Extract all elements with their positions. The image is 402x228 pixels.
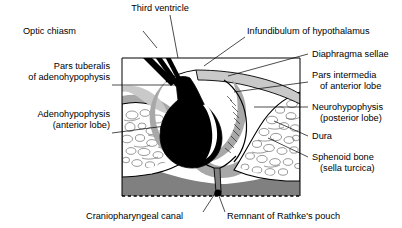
label-pars-intermedia-line1: Pars intermedia (312, 70, 377, 80)
label-dura: Dura (312, 131, 333, 141)
leader-optic-chiasm (143, 31, 157, 48)
label-neurohypophysis-line1: Neurohypophysis (312, 102, 383, 112)
label-rathkes-pouch: Remnant of Rathke's pouch (227, 211, 340, 221)
label-diaphragma-sellae: Diaphragma sellae (312, 49, 389, 59)
label-third-ventricle: Third ventricle (131, 3, 189, 13)
diagram-body (122, 43, 302, 197)
label-neurohypophysis-line2: (posterior lobe) (320, 113, 382, 123)
label-sphenoid-bone-line2: (sella turcica) (320, 163, 375, 173)
label-optic-chiasm: Optic chiasm (23, 26, 76, 36)
leader-rathkes-pouch (219, 196, 225, 212)
label-adenohypophysis-line2: (anterior lobe) (53, 120, 110, 130)
pituitary-anatomy-figure: Third ventricle Optic chiasm Infundibulu… (0, 0, 402, 228)
label-pars-tuberalis-line1: Pars tuberalis (54, 61, 111, 71)
label-pars-tuberalis-line2: of adenohypophysis (28, 72, 110, 82)
label-infundibulum: Infundibulum of hypothalamus (247, 26, 370, 36)
label-adenohypophysis-line1: Adenohypophysis (37, 109, 110, 119)
leader-third-ventricle (170, 15, 178, 58)
figure-canvas: Third ventricle Optic chiasm Infundibulu… (0, 0, 402, 228)
label-sphenoid-bone-line1: Sphenoid bone (312, 152, 374, 162)
label-craniopharyngeal-canal: Craniopharyngeal canal (86, 211, 183, 221)
label-pars-intermedia-line2: of anterior lobe (320, 81, 381, 91)
